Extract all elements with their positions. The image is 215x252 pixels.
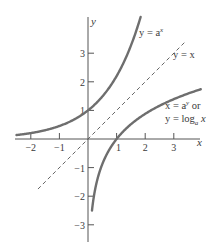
y-tick-label: −1 xyxy=(74,163,85,174)
y-tick-label: 2 xyxy=(80,77,85,88)
x-tick-label: −1 xyxy=(54,142,65,153)
x-tick-label: 3 xyxy=(171,142,176,153)
function-graph: x y −2−1123−3−2−1123 y = ax y = x x = ay… xyxy=(0,0,215,252)
y-tick-label: −2 xyxy=(74,191,85,202)
x-axis-label: x xyxy=(196,136,202,148)
x-tick-label: −2 xyxy=(25,142,36,153)
identity-line-y-equals-x xyxy=(38,42,185,189)
log-curve-label-line1: x = ay or xyxy=(165,99,201,111)
log-curve-label-line2: y = loga x xyxy=(165,113,206,127)
exponential-curve xyxy=(17,17,141,135)
y-tick-label: −3 xyxy=(74,220,85,231)
y-tick-label: 3 xyxy=(80,48,85,59)
exp-curve-label: y = ax xyxy=(139,26,164,38)
identity-line-label: y = x xyxy=(173,49,195,60)
x-tick-label: 1 xyxy=(116,142,121,153)
x-tick-label: 2 xyxy=(143,142,148,153)
y-axis-label: y xyxy=(90,15,96,27)
